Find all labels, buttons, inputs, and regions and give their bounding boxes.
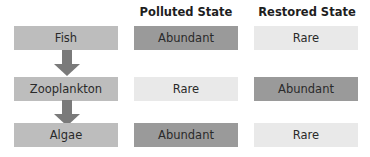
arrow-down-icon xyxy=(52,50,82,80)
restored-zooplankton: Abundant xyxy=(254,77,358,101)
restored-fish: Rare xyxy=(254,26,358,50)
organism-algae: Algae xyxy=(14,123,118,147)
organism-fish: Fish xyxy=(14,26,118,50)
header-restored-state: Restored State xyxy=(247,5,367,19)
polluted-fish: Abundant xyxy=(134,26,238,50)
polluted-zooplankton: Rare xyxy=(134,77,238,101)
polluted-algae: Abundant xyxy=(134,123,238,147)
restored-algae: Rare xyxy=(254,123,358,147)
organism-zooplankton: Zooplankton xyxy=(14,77,118,101)
header-polluted-state: Polluted State xyxy=(126,5,246,19)
